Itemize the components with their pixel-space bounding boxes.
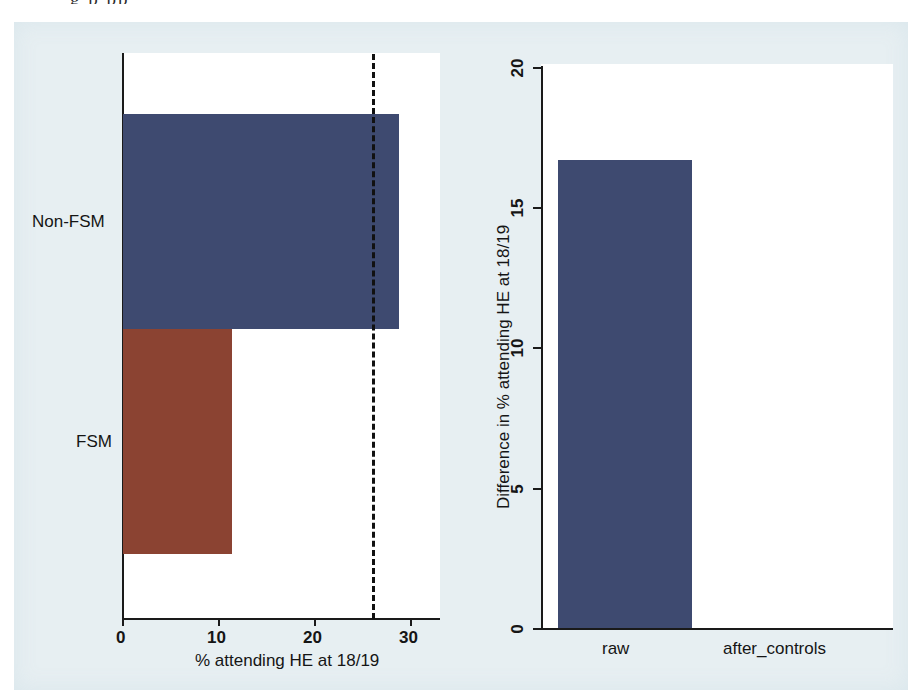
left-xtick-label-20: 20 xyxy=(303,628,322,648)
bar-non-fsm xyxy=(123,114,399,329)
left-xtick-20 xyxy=(314,618,316,626)
left-xtick-label-10: 10 xyxy=(207,628,226,648)
left-xtick-30 xyxy=(410,618,412,626)
category-label-non-fsm: Non-FSM xyxy=(32,212,105,232)
left-xaxis-line xyxy=(122,618,440,620)
right-ytick-10 xyxy=(533,347,541,349)
reference-line-26 xyxy=(372,54,375,619)
right-xaxis-line xyxy=(541,628,893,630)
right-ytick-20 xyxy=(533,67,541,69)
left-xtick-10 xyxy=(218,618,220,626)
left-xtick-label-0: 0 xyxy=(116,628,125,648)
category-label-after-controls: after_controls xyxy=(723,639,826,659)
bar-fsm xyxy=(123,329,232,554)
right-chart-panel: 0 5 10 15 20 Difference in % attending H… xyxy=(460,24,908,688)
figure-root: g p pp 0 10 20 30 % attending HE at 18/1… xyxy=(0,0,920,700)
left-xtick-label-30: 30 xyxy=(399,628,418,648)
right-ytick-0 xyxy=(533,628,541,630)
right-yaxis-title: Difference in % attending HE at 18/19 xyxy=(494,225,514,509)
cut-off-caption-text: g p pp xyxy=(70,0,470,4)
left-xtick-0 xyxy=(122,618,124,626)
right-ytick-label-15: 15 xyxy=(508,194,528,222)
right-ytick-label-20: 20 xyxy=(508,54,528,82)
right-ytick-label-0: 0 xyxy=(508,619,528,639)
left-chart-panel: 0 10 20 30 % attending HE at 18/19 Non-F… xyxy=(16,24,456,688)
bar-raw xyxy=(558,160,692,628)
left-xaxis-title: % attending HE at 18/19 xyxy=(195,651,379,671)
category-label-fsm: FSM xyxy=(76,432,112,452)
right-ytick-5 xyxy=(533,488,541,490)
category-label-raw: raw xyxy=(602,639,629,659)
right-ytick-15 xyxy=(533,207,541,209)
right-yaxis-line xyxy=(541,66,543,628)
